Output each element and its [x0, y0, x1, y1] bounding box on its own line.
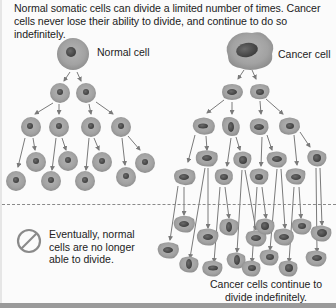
normal-note-line-3: able to divide.: [49, 253, 135, 266]
cancer-note-line-2: divide indefinitely.: [196, 291, 336, 304]
cancer-cell-label: Cancer cell: [278, 48, 331, 61]
normal-note-line-1: Eventually, normal: [49, 228, 135, 241]
prohibited-icon: [18, 230, 40, 252]
cancer-cell-lineage: [158, 32, 332, 276]
cancer-note-line-1: Cancer cells continue to: [196, 278, 336, 291]
normal-note-line-2: cells are no longer: [49, 241, 135, 254]
dashed-divider: [2, 204, 336, 205]
cancer-cell-note: Cancer cells continue to divide indefini…: [196, 278, 336, 303]
normal-cell-note: Eventually, normal cells are no longer a…: [49, 228, 135, 266]
normal-cell-lineage: [6, 38, 155, 191]
normal-cell-label: Normal cell: [97, 46, 150, 59]
